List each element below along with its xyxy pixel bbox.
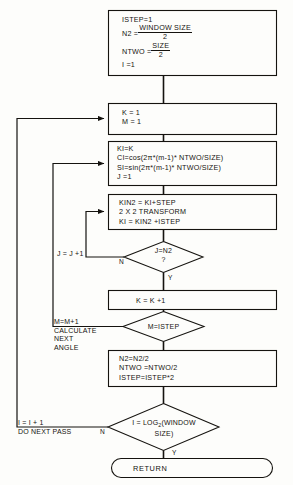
node-shape-k-incr: [109, 291, 277, 310]
edge-j-loop: [86, 212, 124, 258]
node-shape-return: [112, 459, 273, 478]
flowchart-page: ISTEP=1 N2 = WINDOW SIZE 2 NTWO = SIZE 2…: [0, 0, 293, 485]
node-shape-k-m-init: [109, 104, 277, 135]
node-shape-init: [109, 11, 277, 76]
node-shape-j-test: [124, 242, 203, 273]
node-shape-m-test: [123, 312, 204, 342]
node-shape-butterfly: [109, 195, 277, 230]
node-shape-halve: [109, 351, 277, 387]
node-shape-pass-test: [108, 404, 219, 451]
edge-m-loop: [53, 164, 123, 327]
node-shape-twiddle: [109, 142, 277, 186]
flowchart-vector-layer: [0, 0, 293, 485]
edge-i-loop: [17, 119, 108, 428]
